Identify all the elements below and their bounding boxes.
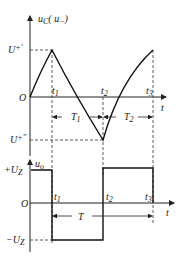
top-plot: uC( u−) U+' U+" O t t1 t2 t3 T1 T2 <box>8 13 166 245</box>
T1-label: T1 <box>71 111 81 124</box>
bottom-t3-label: t3 <box>145 191 152 204</box>
lower-threshold-label: U+" <box>10 133 27 145</box>
bottom-y-axis-label: uo <box>35 158 44 171</box>
diagram-canvas: uC( u−) U+' U+" O t t1 t2 t3 T1 T2 uo +U… <box>0 0 187 264</box>
period-T-label: T <box>78 211 85 222</box>
bottom-t1-label: t1 <box>54 191 61 204</box>
upper-threshold-label: U+' <box>8 43 23 55</box>
bottom-x-axis-label: t <box>166 207 169 218</box>
output-square-wave <box>31 168 153 240</box>
top-t2-label: t2 <box>101 85 108 98</box>
minus-uz-label: −UZ <box>6 234 25 247</box>
T2-label: T2 <box>124 111 134 124</box>
top-y-axis-label: uC( u−) <box>38 13 69 26</box>
bottom-origin-label: O <box>21 198 28 209</box>
top-t3-label: t3 <box>146 85 153 98</box>
top-x-axis-label: t <box>161 102 164 113</box>
waveform-diagram: uC( u−) U+' U+" O t t1 t2 t3 T1 T2 uo +U… <box>0 0 187 264</box>
plus-uz-label: +UZ <box>4 164 23 177</box>
bottom-plot: uo +UZ −UZ O t t1 t2 t3 T <box>4 158 174 252</box>
top-t1-label: t1 <box>52 85 59 98</box>
top-origin-label: O <box>19 92 26 103</box>
bottom-t2-label: t2 <box>106 191 113 204</box>
capacitor-voltage-curve <box>30 50 153 140</box>
